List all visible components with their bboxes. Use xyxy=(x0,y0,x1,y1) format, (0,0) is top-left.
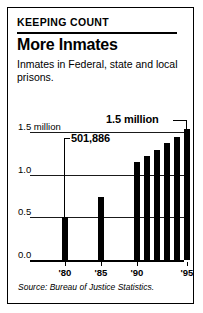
x-axis-tick-label: '95 xyxy=(173,267,201,278)
gridline xyxy=(30,175,184,176)
bar xyxy=(144,156,150,260)
bar xyxy=(134,162,140,260)
bar xyxy=(98,197,104,260)
callout-leader-line-first xyxy=(64,138,65,217)
x-axis-tick-label: '80 xyxy=(51,267,79,278)
x-axis-tick-label: '90 xyxy=(123,267,151,278)
bar xyxy=(174,137,180,260)
x-axis-tick xyxy=(187,262,188,266)
callout-leader-line-last xyxy=(186,120,187,129)
bar-chart: 0.00.51.01.5 million'80'85'90'95501,8861… xyxy=(8,8,195,305)
bar xyxy=(154,150,160,260)
y-axis-tick-label: 0.5 xyxy=(18,206,31,217)
x-axis-tick xyxy=(65,262,66,266)
x-axis-tick-label: '85 xyxy=(87,267,115,278)
bar xyxy=(184,129,190,260)
infographic-panel: KEEPING COUNT More Inmates Inmates in Fe… xyxy=(7,7,194,304)
source-note: Source: Bureau of Justice Statistics. xyxy=(18,282,154,292)
x-axis-tick xyxy=(101,262,102,266)
x-axis-line xyxy=(30,260,184,262)
y-axis-tick-label: 1.0 xyxy=(18,164,31,175)
y-axis-tick-label: 0.0 xyxy=(18,249,31,260)
y-axis-tick-label: 1.5 million xyxy=(18,121,61,132)
callout-label-first: 501,886 xyxy=(71,132,110,144)
callout-leader-elbow-first xyxy=(64,138,70,139)
x-axis-tick xyxy=(137,262,138,266)
bar xyxy=(164,143,170,260)
callout-leader-elbow-last xyxy=(173,120,187,121)
bar xyxy=(62,217,68,260)
gridline xyxy=(30,217,184,218)
callout-label-last: 1.5 million xyxy=(106,113,159,125)
